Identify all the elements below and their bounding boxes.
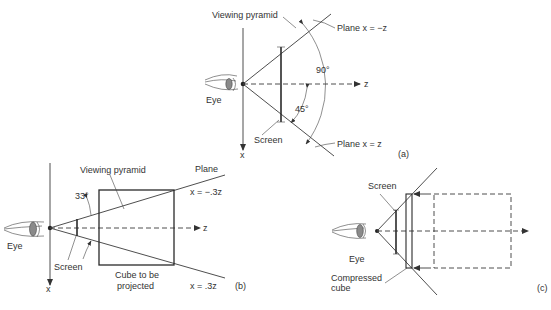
panel-b: Viewing pyramid Plane x = −.3z x = .3z 3… — [4, 163, 246, 294]
eye-label: Eye — [7, 241, 23, 251]
compressed-cube-label-line1: Compressed — [331, 273, 382, 283]
screen-label: Screen — [54, 262, 83, 272]
pyramid-edge-top — [377, 168, 437, 231]
z-axis-label: z — [364, 79, 369, 89]
perspective-diagram: Viewing pyramid Plane x = −z Plane x = z… — [0, 0, 551, 310]
eye-icon — [332, 224, 366, 239]
compressed-cube-label-line2: cube — [331, 283, 351, 293]
eye-icon — [4, 222, 44, 237]
cube-label-line1: Cube to be — [115, 270, 159, 280]
angle-arc-90 — [303, 24, 326, 144]
screen-label: Screen — [368, 181, 397, 191]
panel-c-tag: (c) — [537, 283, 548, 293]
angle-90-label: 90° — [316, 65, 330, 75]
plane-label: Plane — [195, 164, 218, 174]
panel-a: Viewing pyramid Plane x = −z Plane x = z… — [205, 10, 409, 160]
cube-label-line2: projected — [117, 281, 154, 291]
x-axis-label: x — [46, 284, 51, 294]
panel-a-tag: (a) — [398, 149, 409, 159]
plane-bottom-eq-label: x = .3z — [190, 281, 217, 291]
plane-top-label: Plane x = −z — [337, 23, 388, 33]
plane-bottom-label: Plane x = z — [337, 139, 382, 149]
z-axis-label: z — [203, 223, 208, 233]
pyramid-edge-bottom — [377, 231, 437, 295]
panel-c: Screen Eye Compressed cube (c) — [331, 168, 548, 295]
eye-label: Eye — [349, 254, 365, 264]
angle-45-label: 45° — [295, 104, 309, 114]
cube-to-be-projected — [99, 190, 174, 265]
pyramid-edge-bottom — [243, 84, 334, 156]
viewing-pyramid-label: Viewing pyramid — [80, 165, 146, 175]
viewing-pyramid-label: Viewing pyramid — [212, 10, 278, 20]
x-axis-label: x — [240, 150, 245, 160]
screen-label: Screen — [254, 135, 283, 145]
eye-icon — [205, 75, 238, 91]
plane-top-eq-label: x = −.3z — [190, 187, 223, 197]
panel-b-tag: (b) — [235, 281, 246, 291]
angle-33-label: 33° — [75, 191, 89, 201]
eye-label: Eye — [206, 95, 222, 105]
